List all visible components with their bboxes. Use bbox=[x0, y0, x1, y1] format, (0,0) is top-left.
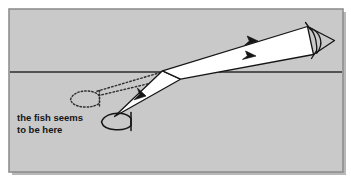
refraction-diagram: the fish seems to be here bbox=[0, 0, 351, 187]
caption-line-2: to be here bbox=[17, 124, 62, 135]
diagram-stage: the fish seems to be here bbox=[0, 0, 351, 187]
caption-line-1: the fish seems bbox=[17, 112, 83, 123]
